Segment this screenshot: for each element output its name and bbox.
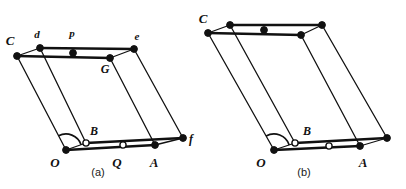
point-label-B: B bbox=[89, 124, 98, 138]
point-label-G: G bbox=[101, 62, 110, 76]
vertex-d bbox=[227, 22, 234, 29]
point-label-C: C bbox=[199, 11, 208, 26]
point-label-p: p bbox=[68, 27, 75, 39]
canvas-background bbox=[0, 0, 406, 189]
point-label-A: A bbox=[358, 155, 368, 170]
point-label-B: B bbox=[302, 124, 311, 138]
vertex-C bbox=[14, 53, 21, 60]
point-label-Q: Q bbox=[112, 155, 122, 170]
point-label-O: O bbox=[256, 155, 266, 170]
edge-d-e bbox=[40, 48, 134, 49]
vertex-f bbox=[384, 135, 391, 142]
figure-caption-b: (b) bbox=[297, 166, 310, 178]
point-label-A: A bbox=[149, 155, 159, 170]
vertex-B bbox=[292, 140, 298, 146]
vertex-Q bbox=[120, 142, 126, 148]
vertex-d bbox=[37, 45, 44, 52]
point-label-C: C bbox=[6, 33, 15, 48]
vertex-f bbox=[180, 135, 187, 142]
vertex-C bbox=[205, 30, 212, 37]
vertex-A bbox=[357, 143, 364, 150]
geometry-figure-canvas: CdpeGBOQAf(a) CBOA(b) bbox=[0, 0, 406, 189]
vertex-Q bbox=[326, 143, 332, 149]
figure-caption-a: (a) bbox=[91, 166, 104, 178]
vertex-e bbox=[319, 22, 326, 29]
vertex-p bbox=[261, 27, 268, 34]
vertex-e bbox=[131, 46, 138, 53]
vertex-O bbox=[63, 147, 70, 154]
vertex-O bbox=[271, 147, 278, 154]
point-label-d: d bbox=[34, 28, 40, 40]
vertex-G bbox=[107, 55, 114, 62]
point-label-e: e bbox=[135, 30, 140, 42]
vertex-A bbox=[152, 142, 159, 149]
vertex-B bbox=[83, 140, 89, 146]
vertex-G bbox=[298, 32, 305, 39]
point-label-O: O bbox=[50, 155, 60, 170]
vertex-p bbox=[70, 50, 77, 57]
